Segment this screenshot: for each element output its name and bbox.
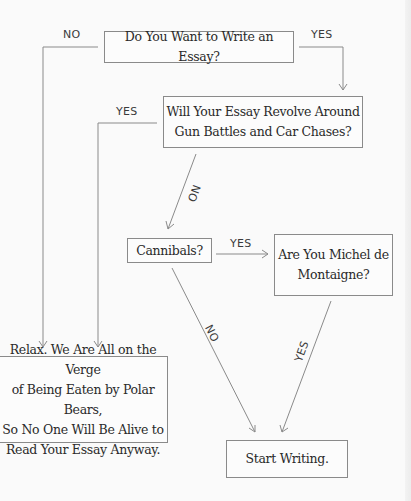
edge-q1-no: [43, 47, 98, 347]
edge-label-q1-yes: YES: [311, 28, 333, 41]
node-text-line-2: Montaigne?: [297, 265, 369, 285]
node-text-line-4: Read Your Essay Anyway.: [6, 440, 160, 460]
node-text-line-2: Gun Battles and Car Chases?: [175, 122, 352, 142]
edge-label-q3-yes: YES: [230, 237, 252, 250]
node-text: Start Writing.: [245, 449, 328, 469]
node-text-line-3: So No One Will Be Alive to: [2, 420, 164, 440]
node-text-line-2: of Being Eaten by Polar Bears,: [0, 380, 167, 420]
node-text-line-1: Relax. We Are All on the Verge: [0, 340, 167, 380]
edge-q4-yes: [282, 301, 331, 432]
node-text: Cannibals?: [136, 241, 203, 261]
edge-q1-yes: [299, 47, 343, 90]
node-cannibals: Cannibals?: [127, 238, 212, 263]
edge-label-q1-no: NO: [63, 28, 81, 41]
node-start-writing: Start Writing.: [226, 440, 348, 478]
node-want-to-write-essay: Do You Want to Write an Essay?: [104, 31, 294, 63]
edge-q3-no: [172, 268, 255, 432]
node-text-line-1: Will Your Essay Revolve Around: [166, 102, 359, 122]
node-michel-de-montaigne: Are You Michel de Montaigne?: [274, 234, 393, 296]
node-text: Do You Want to Write an Essay?: [105, 27, 293, 67]
edge-q2-yes: [98, 123, 157, 347]
node-text-line-1: Are You Michel de: [278, 245, 389, 265]
edge-label-q2-yes: YES: [116, 105, 138, 118]
node-gun-battles-car-chases: Will Your Essay Revolve Around Gun Battl…: [163, 96, 363, 148]
node-relax-polar-bears: Relax. We Are All on the Verge of Being …: [0, 356, 168, 443]
